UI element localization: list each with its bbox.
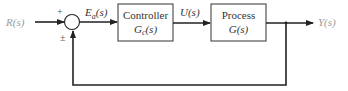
control-signal-label: U(s) [180,6,200,19]
output-label: Y(s) [318,16,336,29]
controller-title: Controller [123,9,169,21]
input-label: R(s) [5,16,25,29]
error-signal-label: Ea(s) [84,6,108,21]
controller-block: Controller Gc(s) [118,4,173,41]
process-title: Process [222,9,256,21]
plus-sign: + [57,6,63,17]
feedback-sign: ± [60,32,66,43]
block-diagram: R(s) + ± Ea(s) Controller Gc(s) U(s) Pro… [0,0,348,91]
process-block: Process G(s) [211,4,266,41]
process-transfer-function: G(s) [229,23,249,36]
controller-transfer-function: Gc(s) [134,23,157,37]
summing-junction [65,15,80,30]
